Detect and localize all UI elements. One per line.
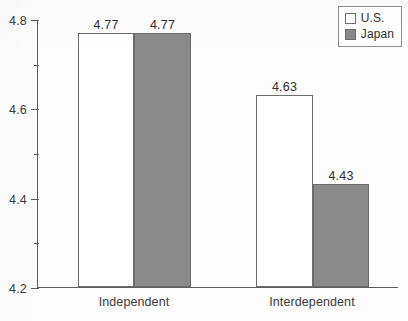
y-axis-label-4.6: 4.6 xyxy=(9,103,27,117)
legend-label-japan: Japan xyxy=(361,27,394,41)
bar-value-interdependent-us: 4.63 xyxy=(272,80,297,94)
plot-area: 4.8 4.6 4.4 4.2 4.77 4.77 Independent 4.… xyxy=(37,20,398,288)
bar-value-independent-us: 4.77 xyxy=(93,18,118,32)
y-tick-minor-4.3 xyxy=(34,243,39,244)
y-tick-4.8: 4.8 xyxy=(31,20,39,21)
legend-item-us: U.S. xyxy=(345,11,394,25)
chart-legend: U.S. Japan xyxy=(338,6,402,47)
bar-interdependent-us: 4.63 xyxy=(256,95,313,287)
y-tick-4.4: 4.4 xyxy=(31,199,39,200)
y-tick-minor-4.7 xyxy=(34,65,39,66)
bar-value-interdependent-japan: 4.43 xyxy=(328,169,353,183)
legend-item-japan: Japan xyxy=(345,27,394,41)
x-axis-label-independent: Independent xyxy=(99,295,170,309)
x-axis-label-interdependent: Interdependent xyxy=(269,295,355,309)
y-axis-label-4.2: 4.2 xyxy=(9,282,27,296)
y-axis-label-4.8: 4.8 xyxy=(9,14,27,28)
legend-swatch-us-icon xyxy=(345,13,356,24)
chart-figure: 4.8 4.6 4.4 4.2 4.77 4.77 Independent 4.… xyxy=(0,0,408,321)
legend-label-us: U.S. xyxy=(361,11,385,25)
bar-independent-japan: 4.77 xyxy=(134,33,191,288)
y-tick-4.6: 4.6 xyxy=(31,109,39,110)
bar-value-independent-japan: 4.77 xyxy=(150,18,175,32)
legend-swatch-japan-icon xyxy=(345,29,356,40)
bar-independent-us: 4.77 xyxy=(78,33,134,288)
y-tick-minor-4.5 xyxy=(34,154,39,155)
bar-interdependent-japan: 4.43 xyxy=(313,184,369,287)
y-axis-label-4.4: 4.4 xyxy=(9,193,27,207)
y-tick-4.2: 4.2 xyxy=(31,288,39,289)
